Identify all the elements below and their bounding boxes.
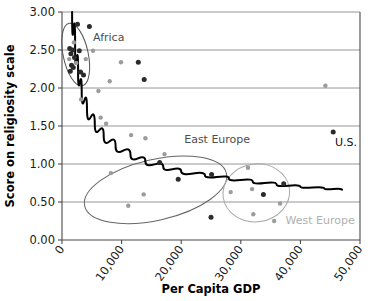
data-point bbox=[77, 48, 82, 53]
data-point bbox=[79, 97, 83, 101]
data-point bbox=[126, 204, 130, 208]
data-point bbox=[331, 130, 336, 135]
data-point bbox=[250, 187, 254, 191]
data-point bbox=[129, 133, 133, 137]
data-point bbox=[84, 57, 88, 61]
data-point bbox=[70, 48, 75, 53]
chart-background bbox=[0, 0, 371, 301]
y-tick-label: 1.50 bbox=[29, 119, 55, 133]
data-point bbox=[176, 177, 181, 182]
data-point bbox=[74, 61, 78, 65]
y-axis-title: Score on religiosity scale bbox=[3, 44, 17, 207]
data-point bbox=[142, 77, 147, 82]
data-point bbox=[272, 219, 276, 223]
annotation-west-europe: West Europe bbox=[286, 214, 355, 227]
data-point bbox=[72, 55, 77, 60]
data-point bbox=[261, 192, 266, 197]
data-point bbox=[108, 79, 112, 83]
data-point bbox=[109, 171, 113, 175]
data-point bbox=[143, 136, 147, 140]
data-point bbox=[81, 73, 86, 78]
annotation-africa: Africa bbox=[93, 31, 124, 44]
religiosity-vs-gdp-scatter-chart: 0.000.501.001.502.002.503.00 010,00020,0… bbox=[0, 0, 371, 301]
data-point bbox=[162, 152, 166, 156]
y-tick-label: 0.50 bbox=[29, 195, 55, 209]
data-point bbox=[142, 192, 146, 196]
data-point bbox=[209, 215, 214, 220]
annotation-east-europe: East Europe bbox=[184, 133, 250, 146]
data-point bbox=[67, 57, 71, 61]
data-point bbox=[72, 40, 76, 44]
data-point bbox=[209, 172, 214, 177]
data-point bbox=[281, 181, 286, 186]
y-tick-label: 2.00 bbox=[29, 81, 55, 95]
data-point bbox=[96, 89, 100, 93]
data-point bbox=[119, 60, 123, 64]
data-point bbox=[136, 60, 141, 65]
data-point bbox=[246, 166, 250, 170]
data-point bbox=[104, 122, 108, 126]
y-tick-label: 3.00 bbox=[29, 5, 55, 19]
y-tick-label: 2.50 bbox=[29, 43, 55, 57]
data-point bbox=[99, 115, 103, 119]
y-tick-label: 0.00 bbox=[29, 233, 55, 247]
data-point bbox=[87, 24, 92, 29]
y-tick-label: 1.00 bbox=[29, 157, 55, 171]
data-point bbox=[323, 84, 327, 88]
data-point bbox=[278, 201, 282, 205]
data-point bbox=[91, 49, 95, 53]
data-point bbox=[229, 190, 233, 194]
x-axis-title: Per Capita GDP bbox=[162, 282, 261, 296]
data-point bbox=[71, 65, 76, 70]
annotation-us: U.S. bbox=[335, 136, 357, 149]
data-point bbox=[157, 160, 162, 165]
data-point bbox=[75, 22, 80, 27]
data-point bbox=[251, 212, 255, 216]
chart-container: 0.000.501.001.502.002.503.00 010,00020,0… bbox=[0, 0, 371, 301]
